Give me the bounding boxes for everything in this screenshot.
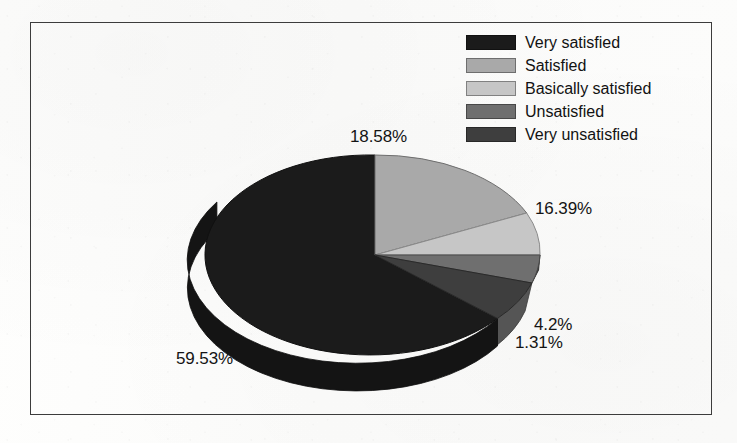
data-label-unsatisfied: 4.2%: [534, 315, 572, 335]
legend-swatch-icon-very-satisfied: [466, 35, 516, 50]
legend-item-satisfied[interactable]: Satisfied: [466, 56, 651, 75]
data-label-very-unsatisfied: 1.31%: [515, 333, 563, 353]
legend-item-basically-satisfied[interactable]: Basically satisfied: [466, 79, 651, 98]
legend-item-very-unsatisfied[interactable]: Very unsatisfied: [466, 125, 651, 144]
legend-item-unsatisfied[interactable]: Unsatisfied: [466, 102, 651, 121]
legend-swatch-icon-basically-satisfied: [466, 81, 516, 96]
data-label-basically-satisfied: 16.39%: [535, 199, 592, 219]
legend-label-satisfied: Satisfied: [525, 58, 586, 74]
chart-legend: Very satisfied Satisfied Basically satis…: [466, 33, 651, 144]
legend-item-very-satisfied[interactable]: Very satisfied: [466, 33, 651, 52]
legend-swatch-icon-satisfied: [466, 58, 516, 73]
data-label-very-satisfied: 59.53%: [176, 349, 233, 369]
legend-swatch-icon-unsatisfied: [466, 104, 516, 119]
legend-label-unsatisfied: Unsatisfied: [525, 104, 604, 120]
page-caption-cropped: [0, 428, 737, 443]
legend-label-very-unsatisfied: Very unsatisfied: [525, 127, 638, 143]
data-label-satisfied: 18.58%: [350, 127, 407, 147]
legend-swatch-icon-very-unsatisfied: [466, 127, 516, 142]
legend-label-very-satisfied: Very satisfied: [525, 35, 620, 51]
legend-label-basically-satisfied: Basically satisfied: [525, 81, 651, 97]
